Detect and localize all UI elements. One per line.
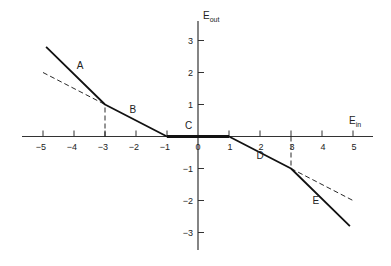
dashed-extension (43, 73, 105, 105)
y-tick-label: −1 (183, 164, 193, 174)
segment-label: A (77, 60, 84, 71)
y-tick-label: 1 (188, 100, 193, 110)
x-tick-label: −1 (160, 142, 170, 152)
x-tick-label: 5 (351, 142, 356, 152)
x-tick-label: 4 (320, 142, 325, 152)
x-tick-label: −5 (36, 142, 46, 152)
x-tick-label: 1 (227, 142, 232, 152)
y-tick-label: 3 (188, 36, 193, 46)
x-tick-label: −3 (98, 142, 108, 152)
x-tick-label: −2 (129, 142, 139, 152)
y-tick-label: −2 (183, 196, 193, 206)
segment-label: D (256, 150, 263, 161)
dashed-extension (291, 169, 353, 201)
segment-label: E (312, 195, 319, 206)
x-tick-label: −4 (67, 142, 77, 152)
y-tick-label: −3 (183, 228, 193, 238)
y-axis-label: Eout (203, 10, 219, 23)
x-axis-label: Ein (349, 115, 361, 128)
segment-label: C (185, 120, 192, 131)
x-tick-label: 0 (195, 142, 200, 152)
y-tick-label: 2 (188, 68, 193, 78)
segment-label: B (130, 104, 137, 115)
x-tick-label: 3 (289, 142, 294, 152)
transfer-characteristic-chart: −5−4−3−2−1012345321−1−2−3 ABCDE Eout Ein (0, 0, 391, 266)
